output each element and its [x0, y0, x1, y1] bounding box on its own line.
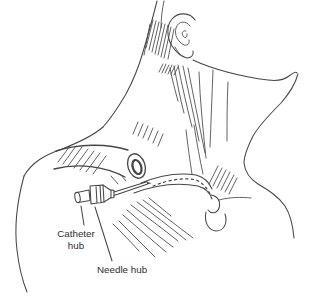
pectoral-muscle-fan	[113, 198, 193, 257]
needle-hub-label: Needle hub	[97, 264, 148, 275]
catheter-hub-leader-line	[81, 206, 84, 225]
needle-hub-taper	[103, 185, 114, 202]
ear-inner-helix	[175, 22, 190, 45]
catheter-hub-label-line2: hub	[68, 240, 85, 251]
ear-inner-curl	[182, 31, 187, 38]
trapezius-shoulder-contour	[24, 127, 103, 176]
catheter-needle-device	[74, 182, 151, 204]
ear	[168, 14, 195, 58]
line-drawing-canvas: Catheter hub Needle hub	[0, 0, 317, 299]
arm-contour	[16, 176, 27, 292]
medial-clavicle-and-notch	[134, 174, 251, 231]
sternocleidomastoid-lines	[170, 65, 228, 174]
catheter-hub-end-cap	[74, 192, 81, 203]
clavicle-cutaway	[54, 145, 148, 180]
needle-hub-leader-line	[95, 207, 112, 261]
sternal-end-hook	[208, 195, 220, 213]
clavicle-cut-face	[125, 151, 149, 180]
chin-neck-front-contour	[244, 74, 298, 238]
needle-tip	[147, 182, 152, 185]
skin-ticks	[111, 174, 126, 184]
needle-hub-body	[90, 185, 104, 204]
suprasternal-notch	[205, 212, 226, 231]
catheter-hub-body	[77, 190, 90, 203]
trapezius-hatching	[133, 122, 163, 146]
opposite-clavicle-line	[219, 197, 251, 200]
back-of-head-line	[103, 1, 157, 127]
ear-outer-helix	[168, 14, 195, 58]
medical-illustration-subclavian-catheterization: Catheter hub Needle hub	[0, 0, 317, 299]
shoulder-end-hatching	[58, 146, 106, 174]
clavicle-medial-lower-edge	[134, 184, 212, 199]
needle-shaft	[114, 182, 147, 196]
scm-clavicular-hatching	[209, 166, 237, 194]
catheter-hub-label-line1: Catheter	[57, 228, 95, 239]
jaw-line	[193, 60, 297, 80]
